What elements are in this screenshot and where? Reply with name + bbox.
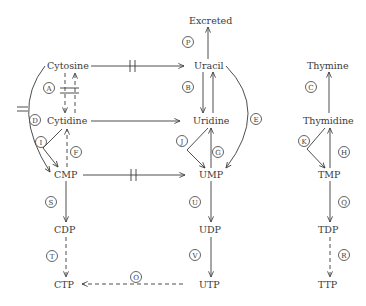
svg-text:K: K	[301, 138, 307, 146]
svg-text:G: G	[215, 149, 221, 157]
label-U: U	[190, 197, 201, 208]
label-H: H	[339, 147, 350, 158]
node-cdp: CDP	[54, 224, 76, 235]
label-C: C	[306, 82, 317, 93]
svg-text:E: E	[253, 116, 258, 124]
node-cytosine: Cytosine	[47, 60, 89, 71]
label-F: F	[71, 147, 82, 158]
node-excreted: Excreted	[189, 15, 232, 26]
label-I: I	[36, 137, 47, 148]
node-thymine: Thymine	[307, 60, 349, 71]
arrow-thymidine-tmp	[307, 128, 325, 168]
label-D: D	[30, 115, 41, 126]
node-tdp: TDP	[318, 224, 339, 235]
svg-text:J: J	[180, 138, 184, 146]
svg-text:U: U	[192, 199, 198, 207]
svg-text:I: I	[40, 139, 43, 147]
label-J: J	[177, 136, 188, 147]
label-O: O	[131, 272, 142, 283]
label-Q: Q	[339, 197, 350, 208]
label-P: P	[183, 37, 194, 48]
label-S: S	[46, 197, 57, 208]
label-E: E	[251, 114, 262, 125]
svg-text:B: B	[185, 84, 190, 92]
svg-text:R: R	[341, 252, 347, 260]
node-uridine: Uridine	[193, 115, 230, 126]
label-A: A	[44, 83, 55, 94]
node-ttp: TTP	[318, 279, 338, 290]
node-utp: UTP	[199, 279, 220, 290]
node-ctp: CTP	[54, 279, 75, 290]
svg-text:Q: Q	[341, 199, 347, 207]
svg-text:S: S	[49, 199, 54, 207]
label-T: T	[47, 251, 58, 262]
node-ump: UMP	[199, 169, 224, 180]
svg-text:O: O	[133, 274, 139, 282]
node-cmp: CMP	[54, 169, 78, 180]
label-B: B	[183, 82, 194, 93]
label-R: R	[339, 250, 350, 261]
node-cytidine: Cytidine	[47, 115, 88, 126]
label-G: G	[213, 147, 224, 158]
node-udp: UDP	[199, 224, 222, 235]
label-V: V	[190, 250, 201, 261]
svg-text:H: H	[341, 149, 347, 157]
label-K: K	[299, 136, 310, 147]
svg-text:C: C	[308, 84, 313, 92]
svg-text:T: T	[50, 253, 55, 261]
pyrimidine-pathway-diagram: Excreted Cytosine Uracil Thymine Cytidin…	[0, 0, 366, 306]
svg-text:V: V	[191, 252, 198, 260]
svg-text:A: A	[45, 85, 52, 93]
arrow-cytidine-cmp	[43, 129, 62, 167]
node-thymidine: Thymidine	[303, 115, 354, 126]
node-uracil: Uracil	[194, 60, 224, 71]
svg-text:D: D	[32, 117, 38, 125]
arrow-uridine-ump	[187, 128, 208, 168]
node-tmp: TMP	[318, 169, 341, 180]
svg-text:F: F	[74, 149, 79, 157]
svg-text:P: P	[186, 39, 191, 47]
